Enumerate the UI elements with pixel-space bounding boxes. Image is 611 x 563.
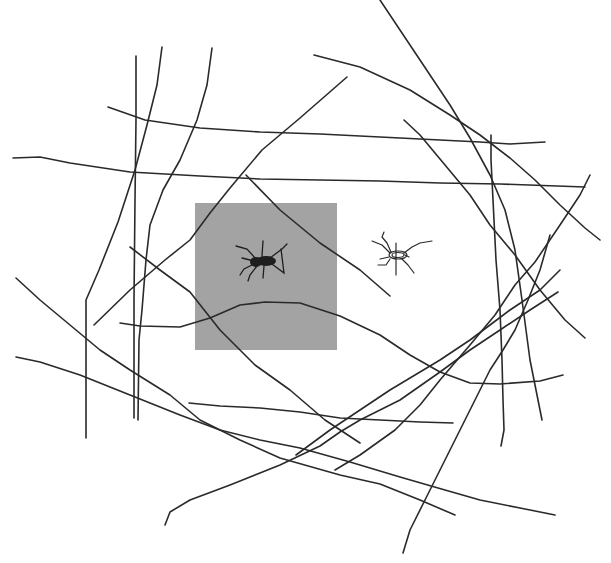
scene-canvas xyxy=(0,0,611,563)
spider-photo-patch xyxy=(195,203,337,350)
photo-background xyxy=(195,203,337,350)
